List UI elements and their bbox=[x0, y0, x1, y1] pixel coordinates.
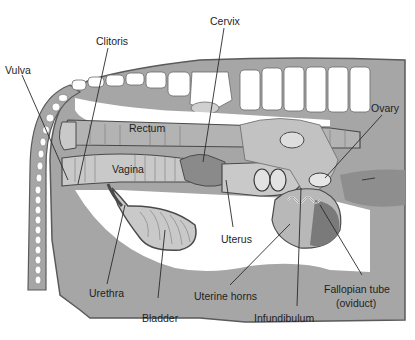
label-vulva: Vulva bbox=[5, 64, 31, 76]
label-uterus: Uterus bbox=[221, 233, 252, 245]
uterus-cavity-1 bbox=[254, 169, 270, 191]
label-fallopian-tube: Fallopian tube bbox=[324, 283, 390, 295]
uterus-cavity-2 bbox=[270, 169, 286, 191]
label-bladder: Bladder bbox=[142, 312, 178, 324]
label-urethra: Urethra bbox=[89, 287, 124, 299]
label-ovary: Ovary bbox=[371, 102, 399, 114]
flank-shadow bbox=[340, 170, 405, 207]
label-clitoris: Clitoris bbox=[96, 35, 128, 47]
anus bbox=[59, 122, 76, 150]
label-infundibulum: Infundibulum bbox=[254, 312, 314, 324]
label-rectum: Rectum bbox=[129, 122, 165, 134]
ovary-upper bbox=[280, 132, 304, 148]
anatomy-diagram: Vulva Clitoris Cervix Ovary Rectum Vagin… bbox=[0, 0, 415, 340]
label-oviduct: (oviduct) bbox=[336, 297, 376, 309]
label-cervix: Cervix bbox=[210, 15, 240, 27]
label-uterine-horns: Uterine horns bbox=[194, 290, 257, 302]
label-vagina: Vagina bbox=[112, 163, 144, 175]
